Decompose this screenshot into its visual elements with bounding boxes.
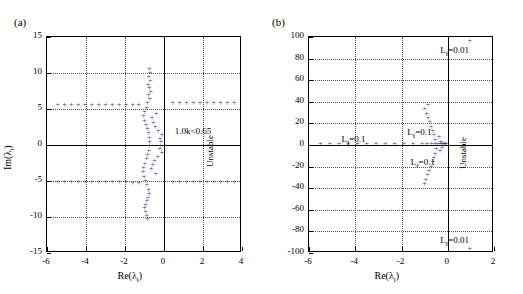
- y-tick-mark: [309, 231, 313, 232]
- y-tick-label: 80: [274, 52, 304, 62]
- y-tick-label: 0: [274, 138, 304, 148]
- x-tick-label: -2: [386, 256, 416, 266]
- data-point: +: [422, 180, 427, 188]
- gridline-horizontal: [309, 231, 492, 232]
- panel-b-plot-area: ++++++++++++++++++++++++++++++++++++++++…: [308, 36, 493, 252]
- x-tick-label: 2: [187, 256, 217, 266]
- data-point: +: [76, 101, 81, 109]
- panel-b-label: (b): [272, 16, 285, 28]
- data-point: +: [205, 99, 210, 107]
- y-tick-mark: [309, 37, 313, 38]
- data-point: +: [76, 178, 81, 186]
- chart-annotation: Unstable: [458, 137, 468, 169]
- gridline-horizontal: [47, 217, 240, 218]
- gridline-horizontal: [309, 59, 492, 60]
- x-tick-label: -4: [70, 256, 100, 266]
- data-point: +: [198, 178, 203, 186]
- zero-axis-vertical: [164, 37, 165, 251]
- x-tick-label: 0: [148, 256, 178, 266]
- x-tick-mark: [242, 247, 243, 251]
- y-tick-mark: [309, 102, 313, 103]
- y-tick-label: -20: [274, 160, 304, 170]
- data-point: +: [154, 110, 159, 118]
- y-tick-mark: [47, 217, 51, 218]
- data-point: +: [225, 99, 230, 107]
- data-point: +: [232, 178, 237, 186]
- data-point: +: [110, 178, 115, 186]
- data-point: +: [225, 178, 230, 186]
- x-tick-label: -6: [293, 256, 323, 266]
- y-tick-label: -100: [274, 246, 304, 256]
- data-point: +: [426, 101, 431, 109]
- data-point: +: [103, 101, 108, 109]
- data-point: +: [117, 178, 122, 186]
- gridline-horizontal: [47, 73, 240, 74]
- data-point: +: [171, 99, 176, 107]
- data-point: +: [218, 99, 223, 107]
- data-point: +: [205, 178, 210, 186]
- data-point: +: [154, 170, 159, 178]
- data-point: +: [383, 140, 388, 148]
- y-tick-label: -60: [274, 203, 304, 213]
- x-axis-title: Re(λi): [118, 270, 143, 284]
- data-point: +: [124, 101, 129, 109]
- data-point: +: [69, 101, 74, 109]
- gridline-vertical: [203, 37, 204, 251]
- data-point: +: [90, 101, 95, 109]
- data-point: +: [136, 101, 141, 109]
- y-tick-label: 10: [12, 66, 42, 76]
- y-tick-mark: [309, 253, 313, 254]
- figure-container: (a) ++++++++++++++++++++++++++++++++++++…: [0, 0, 523, 294]
- data-point: +: [177, 178, 182, 186]
- data-point: +: [62, 101, 67, 109]
- y-tick-label: 60: [274, 73, 304, 83]
- gridline-horizontal: [309, 188, 492, 189]
- data-point: +: [402, 140, 407, 148]
- data-point: +: [184, 99, 189, 107]
- data-point: +: [62, 178, 67, 186]
- x-tick-mark: [125, 247, 126, 251]
- y-tick-label: -15: [12, 246, 42, 256]
- x-tick-mark: [355, 247, 356, 251]
- x-tick-mark: [203, 247, 204, 251]
- data-point: +: [411, 140, 416, 148]
- data-point: +: [96, 101, 101, 109]
- gridline-horizontal: [309, 210, 492, 211]
- y-tick-mark: [309, 80, 313, 81]
- data-point: +: [437, 133, 442, 141]
- chart-annotation: Lf=0.1: [411, 157, 435, 170]
- y-tick-mark: [309, 167, 313, 168]
- x-tick-label: 0: [432, 256, 462, 266]
- x-tick-label: 2: [478, 256, 508, 266]
- gridline-horizontal: [309, 102, 492, 103]
- y-tick-label: -10: [12, 210, 42, 220]
- data-point: +: [103, 178, 108, 186]
- data-point: +: [171, 178, 176, 186]
- y-tick-mark: [47, 145, 51, 146]
- y-tick-label: 15: [12, 30, 42, 40]
- chart-annotation: Unstable: [205, 135, 215, 167]
- x-tick-label: -2: [109, 256, 139, 266]
- y-tick-mark: [309, 145, 313, 146]
- x-tick-mark: [402, 247, 403, 251]
- x-tick-label: -4: [339, 256, 369, 266]
- data-point: +: [55, 101, 60, 109]
- x-tick-mark: [164, 247, 165, 251]
- data-point: +: [136, 179, 141, 187]
- data-point: +: [96, 178, 101, 186]
- data-point: +: [191, 178, 196, 186]
- y-tick-label: -80: [274, 224, 304, 234]
- data-point: +: [131, 101, 136, 109]
- y-tick-label: 40: [274, 95, 304, 105]
- x-axis-title: Re(λi): [375, 270, 400, 284]
- data-point: +: [145, 215, 150, 223]
- data-point: +: [211, 99, 216, 107]
- data-point: +: [328, 140, 333, 148]
- y-tick-label: 5: [12, 102, 42, 112]
- data-point: +: [191, 99, 196, 107]
- y-tick-mark: [309, 123, 313, 124]
- data-point: +: [124, 178, 129, 186]
- data-point: +: [232, 99, 237, 107]
- x-tick-mark: [47, 247, 48, 251]
- data-point: +: [83, 101, 88, 109]
